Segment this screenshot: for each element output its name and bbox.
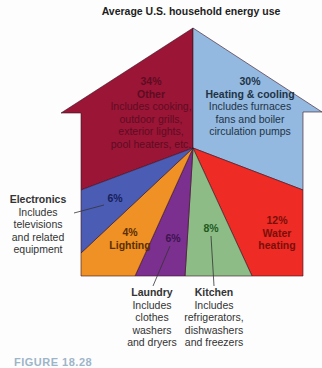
label-kitchen: Kitchen Includes refrigerators, dishwash…	[182, 286, 246, 349]
other-percent: 34%	[96, 75, 206, 88]
label-heating-cooling: 30% Heating & cooling Includes furnaces …	[195, 75, 305, 138]
laundry-desc-1: Includes	[122, 299, 182, 312]
lighting-percent: 4%	[100, 226, 160, 239]
kitchen-desc-1: Includes	[182, 299, 246, 312]
kitchen-desc-3: dishwashers	[182, 324, 246, 337]
kitchen-percent: 8%	[196, 222, 226, 235]
other-desc-1: Includes cooking,	[96, 100, 206, 113]
laundry-desc-4: and dryers	[122, 336, 182, 349]
water-name-2: heating	[247, 239, 307, 252]
electronics-desc-2: televisions	[4, 218, 72, 231]
electronics-desc-1: Includes	[4, 206, 72, 219]
label-kitchen-percent: 8%	[196, 222, 226, 235]
label-lighting: 4% Lighting	[100, 226, 160, 251]
label-laundry: Laundry Includes clothes washers and dry…	[122, 286, 182, 349]
water-percent: 12%	[247, 214, 307, 227]
laundry-desc-3: washers	[122, 324, 182, 337]
laundry-percent: 6%	[158, 232, 188, 245]
other-desc-4: pool heaters, etc.	[96, 138, 206, 151]
water-name-1: Water	[247, 227, 307, 240]
label-electronics-percent: 6%	[100, 192, 130, 205]
laundry-name: Laundry	[122, 286, 182, 299]
other-desc-3: exterior lights,	[96, 125, 206, 138]
kitchen-desc-4: and freezers	[182, 336, 246, 349]
electronics-name: Electronics	[4, 193, 72, 206]
electronics-desc-4: equipment	[4, 243, 72, 256]
label-water-heating: 12% Water heating	[247, 214, 307, 252]
electronics-percent: 6%	[100, 192, 130, 205]
label-electronics: Electronics Includes televisions and rel…	[4, 193, 72, 256]
heating-desc-1: Includes furnaces	[195, 100, 305, 113]
laundry-desc-2: clothes	[122, 311, 182, 324]
heating-name: Heating & cooling	[195, 88, 305, 101]
label-other: 34% Other Includes cooking, outdoor gril…	[96, 75, 206, 150]
heating-percent: 30%	[195, 75, 305, 88]
electronics-desc-3: and related	[4, 231, 72, 244]
other-desc-2: outdoor grills,	[96, 113, 206, 126]
heating-desc-3: circulation pumps	[195, 125, 305, 138]
heating-desc-2: fans and boiler	[195, 113, 305, 126]
kitchen-desc-2: refrigerators,	[182, 311, 246, 324]
figure-caption: FIGURE 18.28	[14, 356, 92, 368]
label-laundry-percent: 6%	[158, 232, 188, 245]
other-name: Other	[96, 88, 206, 101]
kitchen-name: Kitchen	[182, 286, 246, 299]
lighting-name: Lighting	[100, 239, 160, 252]
